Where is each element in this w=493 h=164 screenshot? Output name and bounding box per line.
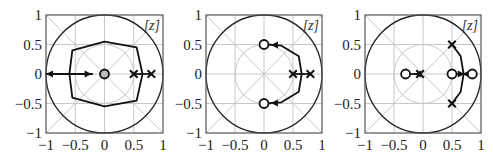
chart-panel-3: [z]−1−0.500.5110.50−0.5−1 [334, 7, 485, 153]
y-tick-label: 1 [195, 7, 203, 23]
x-tick-label: 0 [101, 137, 109, 153]
y-tick-label: 0.5 [183, 37, 202, 53]
arrow-head [271, 42, 278, 49]
locus-branch [267, 45, 302, 75]
arrow-head [85, 71, 92, 78]
x-tick-label: 0 [419, 137, 427, 153]
y-tick-label: −1 [26, 125, 42, 141]
x-tick-label: 0.5 [443, 137, 462, 153]
zero-marker [448, 70, 457, 79]
zero-marker [468, 70, 477, 79]
y-tick-label: 1 [35, 7, 43, 23]
y-tick-label: −1 [186, 125, 202, 141]
chart-panel-1: [z]−1−0.500.5110.50−0.5−1 [15, 7, 167, 153]
zero-marker [401, 70, 410, 79]
plane-label: [z] [144, 18, 160, 33]
chart-panel-2: [z]−1−0.500.5110.50−0.5−1 [175, 7, 326, 153]
x-tick-label: −0.5 [62, 137, 89, 153]
x-tick-label: 1 [477, 137, 485, 153]
arrow-head [271, 99, 278, 106]
zero-marker [100, 70, 109, 79]
x-tick-label: 0.5 [284, 137, 303, 153]
y-tick-label: −1 [345, 125, 361, 141]
zero-marker [260, 40, 269, 49]
locus-branch [267, 74, 302, 104]
y-tick-label: 0 [195, 66, 203, 82]
y-tick-label: −0.5 [15, 96, 42, 112]
x-tick-label: 1 [159, 137, 167, 153]
root-locus-figure: [z]−1−0.500.5110.50−0.5−1[z]−1−0.500.511… [0, 0, 493, 164]
y-tick-label: −0.5 [175, 96, 202, 112]
x-tick-label: 0 [260, 137, 268, 153]
x-tick-label: 0.5 [124, 137, 143, 153]
y-tick-label: 0 [354, 66, 362, 82]
plane-label: [z] [462, 18, 478, 33]
x-tick-label: −0.5 [380, 137, 407, 153]
y-tick-label: 1 [354, 7, 362, 23]
y-tick-label: 0.5 [342, 37, 361, 53]
y-tick-label: 0 [35, 66, 43, 82]
zero-marker [260, 99, 269, 108]
arrow-head [46, 71, 53, 78]
y-tick-label: 0.5 [23, 37, 42, 53]
y-tick-label: −0.5 [334, 96, 361, 112]
plane-label: [z] [303, 18, 319, 33]
x-tick-label: 1 [318, 137, 326, 153]
x-tick-label: −0.5 [221, 137, 248, 153]
